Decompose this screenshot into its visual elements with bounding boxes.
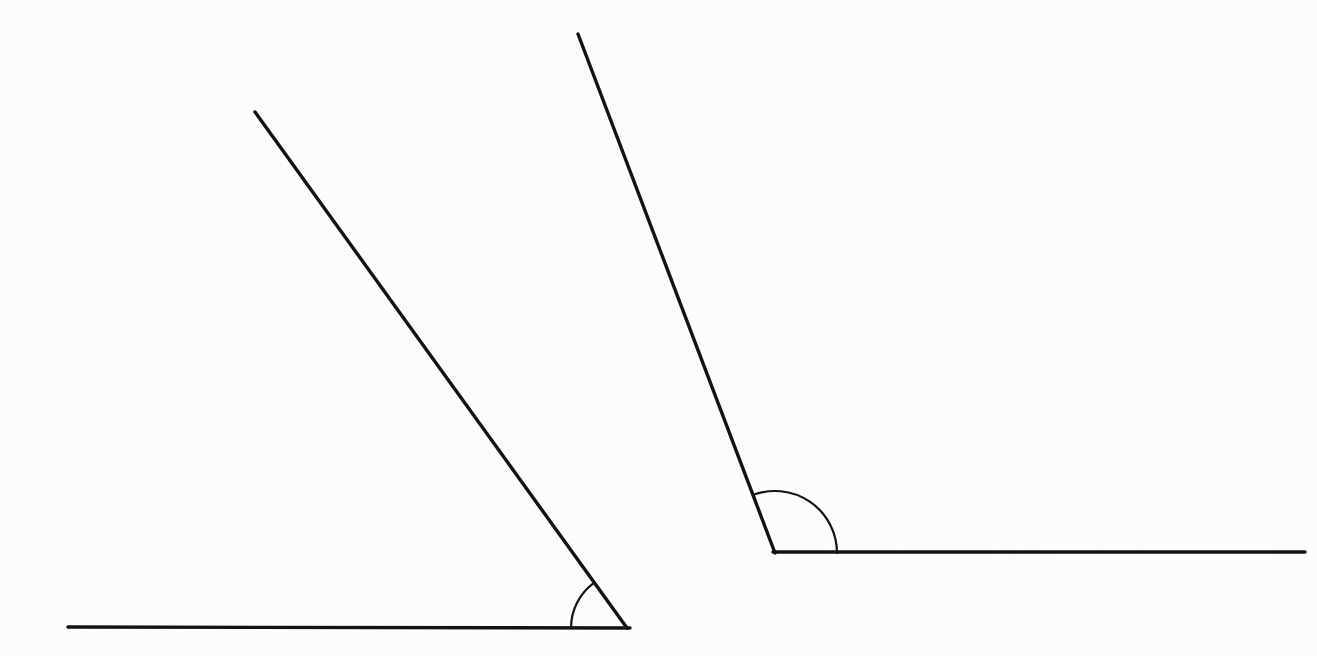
angles-diagram bbox=[0, 0, 1317, 656]
figure-canvas bbox=[0, 0, 1317, 656]
acute-angle-group bbox=[68, 112, 630, 628]
obtuse-angle-slanted-ray bbox=[578, 34, 775, 553]
obtuse-angle-arc bbox=[753, 491, 837, 553]
obtuse-angle-group bbox=[578, 34, 1305, 553]
acute-angle-slanted-ray bbox=[255, 112, 627, 628]
acute-angle-horizontal-ray bbox=[68, 627, 630, 628]
acute-angle-arc bbox=[571, 583, 594, 628]
